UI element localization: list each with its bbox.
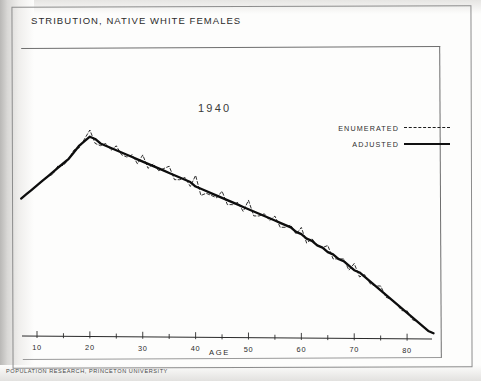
legend-item-enumerated: ENUMERATED [330,120,450,136]
x-axis-tick-label: 10 [32,343,42,352]
x-axis-ticks [37,331,407,341]
x-axis-tick-label: 60 [297,345,307,354]
scan-shadow-top [0,0,481,14]
source-credit: POPULATION RESEARCH, PRINCETON UNIVERSIT… [6,368,168,374]
series-line-enumerated [21,130,433,333]
legend-line-dashed-icon [404,124,450,132]
legend-item-adjusted: ADJUSTED [330,136,450,152]
series-line-adjusted [21,137,433,334]
chart-plot-area [0,0,481,381]
page-title: STRIBUTION, NATIVE WHITE FEMALES [31,15,241,26]
legend-line-solid-icon [404,140,450,148]
x-axis-tick-label: 80 [402,346,412,355]
year-annotation: 1940 [198,102,231,114]
x-axis-label: AGE [209,348,230,357]
x-axis-tick-label: 20 [85,343,95,352]
x-axis [22,331,432,341]
legend-label-enumerated: ENUMERATED [338,124,399,133]
page-border [11,5,472,368]
scan-shadow-left [0,0,34,381]
x-axis-tick-label: 70 [349,345,359,354]
x-axis-tick-label: 50 [244,345,254,354]
x-axis-tick-label: 30 [138,344,148,353]
chart-frame [21,46,442,360]
legend-label-adjusted: ADJUSTED [352,140,399,149]
x-axis-tick-label: 40 [191,344,201,353]
chart-legend: ENUMERATED ADJUSTED [330,120,450,152]
scanned-page: STRIBUTION, NATIVE WHITE FEMALES 1940 EN… [0,0,481,381]
